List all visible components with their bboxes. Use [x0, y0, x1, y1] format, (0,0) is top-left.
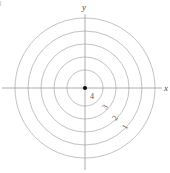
x-axis-label: x [163, 83, 168, 93]
radius-label-group: 321 [100, 103, 130, 131]
figure-canvas: x y 4 321 [0, 0, 170, 173]
corner-artifact [0, 1, 1, 6]
y-axis-label: y [81, 2, 86, 12]
origin-value-label: 4 [90, 92, 94, 101]
origin-dot [83, 86, 87, 90]
radius-label-1: 1 [120, 123, 130, 131]
radius-label-2: 2 [110, 114, 120, 122]
polar-grid-figure: x y 4 321 [0, 0, 170, 173]
radius-label-3: 3 [100, 103, 110, 111]
